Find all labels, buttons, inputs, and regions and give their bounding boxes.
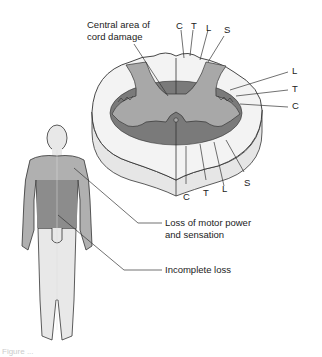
label-top-c: C [176, 20, 183, 32]
label-motor-loss: Loss of motor power and sensation [165, 217, 251, 241]
label-central-damage: Central area of cord damage [87, 19, 150, 43]
label-top-s: S [224, 24, 230, 36]
label-bottom-c: C [183, 191, 190, 203]
label-right-l: L [292, 65, 297, 77]
label-bottom-t: T [203, 187, 209, 199]
spinal-cord-cross-section [92, 53, 262, 196]
label-top-t: T [191, 20, 197, 32]
label-right-t: T [292, 83, 298, 95]
label-incomplete-loss: Incomplete loss [165, 264, 231, 276]
figure-caption: Figure ... [2, 347, 34, 356]
label-bottom-s: S [244, 177, 250, 189]
human-figure [22, 125, 92, 340]
label-top-l: L [206, 22, 211, 34]
diagram-canvas [0, 0, 322, 357]
label-bottom-l: L [222, 183, 227, 195]
label-right-c: C [292, 100, 299, 112]
